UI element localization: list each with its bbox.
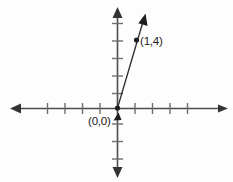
- ray-group: [118, 14, 148, 109]
- y-axis-group: [112, 7, 123, 178]
- origin-label-0-0: (0,0): [88, 115, 111, 127]
- coordinate-plane-figure: (1,4) (0,0): [0, 0, 233, 182]
- y-axis-down-arrow-icon: [113, 167, 123, 178]
- x-axis-right-arrow-icon: [218, 105, 228, 113]
- point-marker-1-4: [134, 37, 139, 42]
- y-axis-up-arrow-icon: [113, 7, 123, 18]
- plot-svg: (1,4) (0,0): [0, 0, 233, 182]
- x-axis-left-arrow-icon: [10, 104, 21, 114]
- point-marker-origin: [115, 105, 120, 110]
- ray-from-origin-through-point: [118, 20, 144, 108]
- point-label-1-4: (1,4): [140, 35, 163, 47]
- ray-arrowhead-icon: [138, 14, 147, 26]
